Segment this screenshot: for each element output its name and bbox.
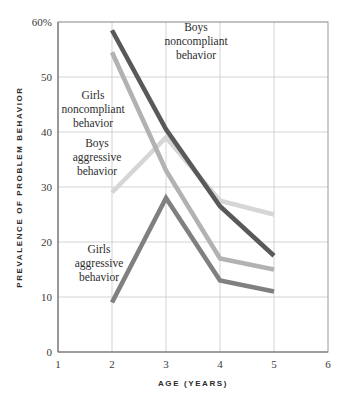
y-axis-title: PREVALENCE OF PROBLEM BEHAVIOR bbox=[15, 86, 24, 288]
annotation-boys-aggressive-line1: Boys bbox=[85, 137, 109, 150]
annotation-girls-noncompliant-line1: Girls bbox=[82, 89, 106, 101]
y-tick-label-30: 30 bbox=[41, 181, 53, 193]
y-tick-label-0: 0 bbox=[47, 346, 53, 358]
y-tick-label-10: 10 bbox=[41, 291, 53, 303]
x-tick-label-5: 5 bbox=[271, 358, 277, 370]
x-axis-title: AGE (YEARS) bbox=[158, 379, 228, 388]
annotation-girls-noncompliant-line2: noncompliant bbox=[61, 103, 125, 116]
annotation-boys-aggressive-line3: behavior bbox=[77, 165, 117, 177]
y-tick-label-40: 40 bbox=[41, 126, 53, 138]
y-tick-label-20: 20 bbox=[41, 236, 53, 248]
x-tick-label-3: 3 bbox=[163, 358, 169, 370]
x-tick-label-2: 2 bbox=[109, 358, 115, 370]
annotation-boys-noncompliant-line3: behavior bbox=[176, 49, 216, 61]
chart-container: 60% 50 40 30 20 10 0 1 2 3 4 5 6 AGE (YE… bbox=[0, 0, 347, 401]
y-tick-label-60: 60% bbox=[32, 16, 52, 28]
y-axis-tick-labels: 60% 50 40 30 20 10 0 bbox=[32, 16, 53, 358]
annotation-girls-aggressive-line3: behavior bbox=[79, 271, 119, 283]
x-tick-label-1: 1 bbox=[55, 358, 61, 370]
annotation-girls-noncompliant-line3: behavior bbox=[73, 117, 113, 129]
annotation-boys-aggressive-line2: aggressive bbox=[73, 151, 122, 164]
annotation-boys-noncompliant-line2: noncompliant bbox=[164, 35, 228, 48]
x-tick-label-4: 4 bbox=[217, 358, 223, 370]
annotation-girls-aggressive-line1: Girls bbox=[88, 243, 112, 255]
line-chart: 60% 50 40 30 20 10 0 1 2 3 4 5 6 AGE (YE… bbox=[0, 0, 347, 401]
x-axis-tick-labels: 1 2 3 4 5 6 bbox=[55, 358, 331, 370]
annotation-girls-aggressive-line2: aggressive bbox=[75, 257, 124, 270]
y-tick-label-50: 50 bbox=[41, 71, 53, 83]
x-tick-label-6: 6 bbox=[325, 358, 331, 370]
annotation-boys-noncompliant-line1: Boys bbox=[184, 21, 208, 34]
